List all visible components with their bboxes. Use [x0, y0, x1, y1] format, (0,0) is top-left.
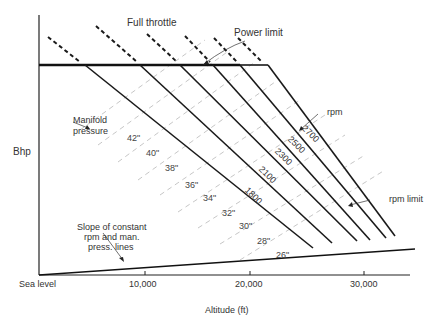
slope-label-3: press. lines	[88, 243, 134, 253]
y-axis-label: Bhp	[13, 146, 31, 157]
mp-30: 30"	[239, 221, 252, 231]
mp-42: 42"	[127, 133, 140, 143]
x-tick-20000: 20,000	[235, 280, 263, 290]
mp-28: 28"	[257, 236, 270, 246]
diagram-canvas	[0, 0, 442, 325]
x-tick-10000: 10,000	[129, 280, 157, 290]
mp-40: 40"	[146, 148, 159, 158]
x-tick-30000: 30,000	[350, 280, 378, 290]
mp-36: 36"	[185, 180, 198, 190]
rpm-limit-label: rpm limit	[389, 195, 423, 205]
x-axis-label: Altitude (ft)	[205, 306, 249, 316]
mp-26: 26"	[276, 250, 289, 260]
full-throttle-dashes	[48, 26, 262, 62]
full-throttle-label: Full throttle	[127, 17, 176, 28]
power-limit-label: Power limit	[234, 27, 283, 38]
mp-32: 32"	[222, 208, 235, 218]
slope-line	[39, 249, 415, 275]
manifold-label-2: pressure	[73, 127, 108, 137]
manifold-label-1: Manifold	[73, 116, 107, 126]
mp-34: 34"	[203, 193, 216, 203]
mp-38: 38"	[165, 163, 178, 173]
rpm-label: rpm	[327, 108, 343, 118]
x-tick-sea-level: Sea level	[19, 280, 56, 290]
